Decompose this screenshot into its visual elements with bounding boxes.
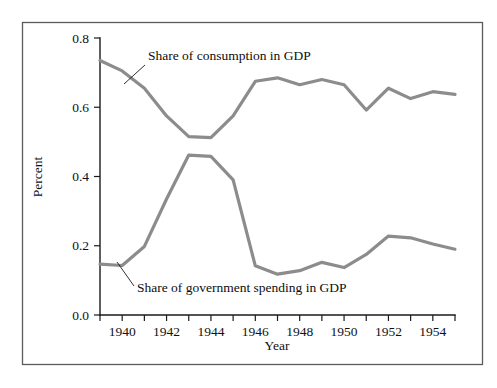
y-axis-title: Percent — [30, 157, 45, 198]
y-axis-tick-label: 0.6 — [72, 100, 89, 115]
x-axis-tick-label: 1952 — [375, 324, 402, 339]
annotation-government-spending-label: Share of government spending in GDP — [137, 280, 347, 295]
y-axis-tick-label: 0.2 — [72, 238, 89, 253]
figure-border — [23, 23, 483, 365]
x-axis-tick-label: 1954 — [419, 324, 446, 339]
x-axis-tick-label: 1940 — [109, 324, 136, 339]
y-axis-tick-label: 0.0 — [72, 308, 89, 323]
x-axis-tick-label: 1942 — [153, 324, 180, 339]
x-axis-title: Year — [265, 338, 290, 353]
line-chart: 0.00.20.40.60.8 Percent 1940194219441946… — [0, 0, 497, 388]
x-axis-tick-label: 1946 — [242, 324, 269, 339]
x-axis-tick-label: 1948 — [286, 324, 313, 339]
x-axis-tick-label: 1944 — [197, 324, 224, 339]
annotation-consumption-label: Share of consumption in GDP — [148, 48, 311, 63]
y-axis-tick-label: 0.8 — [72, 31, 89, 46]
x-axis-tick-label: 1950 — [331, 324, 358, 339]
chart-figure: 0.00.20.40.60.8 Percent 1940194219441946… — [0, 0, 497, 388]
y-axis-tick-label: 0.4 — [72, 169, 89, 184]
